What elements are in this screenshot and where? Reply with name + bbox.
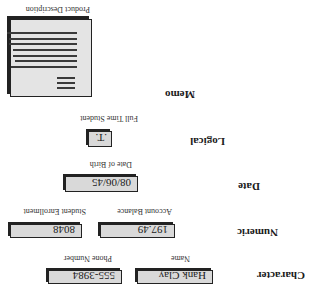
product-description-caption: Product Description [26,5,90,14]
phone-number-caption: Phone Number [64,254,112,263]
type-label-numeric: Numeric [237,227,278,239]
full-time-student-caption: Full Time Student [80,114,138,123]
date-of-birth-field[interactable]: 08/06/45 [65,176,138,192]
date-of-birth-caption: Date of Birth [90,160,132,169]
type-label-memo: Memo [165,89,195,101]
type-label-logical: Logical [190,136,225,148]
name-field[interactable]: Hank Clay [137,270,213,284]
student-enrollment-caption: Student Enrollment [24,207,86,216]
account-balance-field[interactable]: 197.49 [100,224,175,238]
student-enrollment-field[interactable]: 8048 [10,224,82,238]
account-balance-caption: Account Balance [117,207,172,216]
full-time-student-field[interactable]: .T. [88,131,112,147]
type-label-character: Character [257,270,305,282]
memo-document-icon[interactable] [10,19,92,97]
type-label-date: Date [238,181,260,193]
phone-number-field[interactable]: 555-3984 [48,270,122,284]
field-types-figure: Character Hank Clay Name 555-3984 Phone … [0,0,312,294]
name-caption: Name [171,254,190,263]
